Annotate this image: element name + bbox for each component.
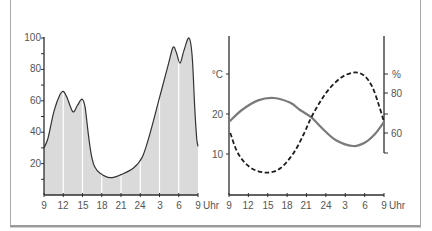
x-tick-label: 6 <box>176 200 182 211</box>
y-tick-label: 60 <box>391 128 403 139</box>
left-axis-unit-label: °C <box>212 69 223 80</box>
chart-canvas: 20 40 60 80 100 9 12 15 18 21 24 3 6 9 U… <box>0 0 432 231</box>
x-tick-label: 15 <box>77 200 89 211</box>
y-tick-label: 20 <box>212 109 224 120</box>
x-tick-label: 21 <box>300 200 312 211</box>
x-axis-unit-label: Uhr <box>203 200 220 211</box>
x-tick-label: 3 <box>342 200 348 211</box>
y-tick-label: 60 <box>30 95 42 106</box>
y-tick-label: 20 <box>30 158 42 169</box>
dashed-series-line <box>230 72 384 172</box>
x-tick-label: 15 <box>262 200 274 211</box>
x-tick-label: 9 <box>226 200 232 211</box>
left-area-chart: 20 40 60 80 100 9 12 15 18 21 24 3 6 9 U… <box>24 30 219 211</box>
left-y-tick-labels: 20 40 60 80 100 <box>24 32 41 169</box>
x-tick-label: 21 <box>115 200 127 211</box>
x-tick-label: 24 <box>134 200 146 211</box>
left-x-tick-labels: 9 12 15 18 21 24 3 6 9 Uhr <box>41 200 220 211</box>
x-tick-label: 24 <box>320 200 332 211</box>
x-tick-label: 12 <box>57 200 69 211</box>
x-axis-unit-label: Uhr <box>389 200 406 211</box>
x-tick-label: 6 <box>362 200 368 211</box>
y-tick-label: 80 <box>30 63 42 74</box>
y-tick-label: 80 <box>391 88 403 99</box>
y-tick-label: 100 <box>24 32 41 43</box>
right-axis-unit-label: % <box>392 69 401 80</box>
x-tick-label: 9 <box>381 200 387 211</box>
x-tick-label: 9 <box>195 200 201 211</box>
right-line-chart: °C 20 10 % 80 60 9 12 15 18 21 24 3 6 9 … <box>212 36 406 211</box>
x-tick-label: 12 <box>242 200 254 211</box>
solid-series-line <box>229 98 384 146</box>
x-tick-label: 18 <box>281 200 293 211</box>
x-tick-label: 18 <box>96 200 108 211</box>
y-tick-label: 10 <box>212 149 224 160</box>
y-tick-label: 40 <box>30 126 42 137</box>
area-fill <box>44 38 198 195</box>
x-tick-label: 3 <box>157 200 163 211</box>
x-tick-label: 9 <box>41 200 47 211</box>
right-x-tick-labels: 9 12 15 18 21 24 3 6 9 Uhr <box>226 200 406 211</box>
